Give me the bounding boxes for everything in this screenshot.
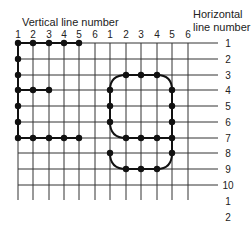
grid-dot <box>107 87 113 93</box>
horizontal-line-label: 10 <box>222 180 234 191</box>
grid-dot <box>154 72 160 78</box>
grid-dot <box>123 72 129 78</box>
grid-dot <box>169 135 175 141</box>
grid-dot <box>30 87 36 93</box>
grid-dot <box>154 135 160 141</box>
vertical-line-label: 2 <box>123 29 129 40</box>
vertical-line-label: 3 <box>138 29 144 40</box>
grid-dot <box>169 103 175 109</box>
grid-dot <box>46 40 52 46</box>
horizontal-line-label: 5 <box>225 101 231 112</box>
grid-dot <box>15 87 21 93</box>
grid-dot <box>46 135 52 141</box>
horizontal-line-label: 4 <box>225 85 231 96</box>
vertical-line-label: 6 <box>92 29 98 40</box>
horizontal-line-labels: 1234567891012 <box>222 38 234 223</box>
grid-dot <box>15 40 21 46</box>
vertical-line-label: 1 <box>107 29 113 40</box>
grid-dot <box>107 103 113 109</box>
vertical-line-label: 6 <box>185 29 191 40</box>
grid-dot <box>138 166 144 172</box>
horizontal-line-label: 7 <box>225 133 231 144</box>
horizontal-axis-title-line1: Horizontal <box>193 8 243 20</box>
horizontal-line-label: 3 <box>225 70 231 81</box>
grid-dot <box>138 135 144 141</box>
vertical-line-label: 1 <box>15 29 21 40</box>
vertical-axis-title: Vertical line number <box>22 16 119 28</box>
vertical-line-labels: 123456123456 <box>15 29 191 40</box>
vertical-line-label: 5 <box>76 29 82 40</box>
grid-dot <box>169 150 175 156</box>
vertical-line-label: 2 <box>30 29 36 40</box>
grid-dot <box>15 135 21 141</box>
grid-dot <box>61 135 67 141</box>
horizontal-line-label: 1 <box>225 38 231 49</box>
horizontal-axis-title-line2: line number <box>193 21 251 33</box>
grid-dot <box>61 40 67 46</box>
grid-dot <box>15 103 21 109</box>
grid-dot <box>30 40 36 46</box>
grid-dot <box>169 119 175 125</box>
horizontal-line-label: 1 <box>225 196 231 207</box>
horizontal-line-label: 9 <box>225 164 231 175</box>
vertical-line-label: 3 <box>46 29 52 40</box>
grid-dot <box>15 119 21 125</box>
grid-lines <box>18 43 218 200</box>
grid-dot <box>123 135 129 141</box>
grid-dot <box>15 56 21 62</box>
grid-dot <box>169 87 175 93</box>
horizontal-line-label: 2 <box>225 54 231 65</box>
grid-dot <box>76 40 82 46</box>
vertical-line-label: 4 <box>154 29 160 40</box>
grid-dot <box>154 166 160 172</box>
grid-dot <box>138 72 144 78</box>
grid-dot <box>46 87 52 93</box>
character-grid-diagram: Vertical line number Horizontal line num… <box>0 0 251 237</box>
grid-dot <box>123 166 129 172</box>
vertical-line-label: 5 <box>169 29 175 40</box>
grid-dot <box>107 150 113 156</box>
grid-dot <box>30 135 36 141</box>
grid-dot <box>76 135 82 141</box>
vertical-line-label: 4 <box>61 29 67 40</box>
grid-dot <box>15 72 21 78</box>
horizontal-line-label: 6 <box>225 117 231 128</box>
horizontal-line-label: 2 <box>225 212 231 223</box>
horizontal-line-label: 8 <box>225 148 231 159</box>
grid-dot <box>107 119 113 125</box>
